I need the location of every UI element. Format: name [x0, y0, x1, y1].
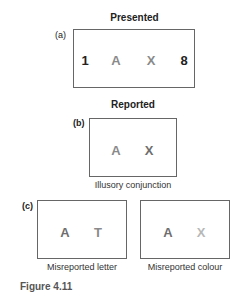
misreported-colour-char-2: X	[197, 225, 206, 240]
misreported-letter-char-2: T	[94, 225, 102, 240]
figure-caption: Figure 4.11	[20, 281, 72, 292]
panel-a-label: (a)	[55, 30, 66, 40]
reported-char-1: A	[111, 143, 120, 158]
presented-box: 1 A X 8	[73, 29, 195, 88]
misreported-letter-caption: Misreported letter	[37, 262, 127, 272]
misreported-colour-char-1: A	[163, 225, 172, 240]
presented-char-4: 8	[180, 53, 187, 68]
reported-char-2: X	[145, 143, 154, 158]
reported-box: A X	[89, 118, 177, 177]
illusory-conjunction-caption: Illusory conjunction	[89, 180, 177, 190]
reported-heading: Reported	[88, 99, 178, 110]
presented-char-3: X	[147, 53, 156, 68]
presented-char-1: 1	[81, 53, 88, 68]
misreported-colour-box: A X	[140, 200, 230, 259]
presented-char-2: A	[111, 53, 120, 68]
panel-c-label: (c)	[22, 201, 33, 211]
misreported-letter-box: A T	[37, 200, 127, 259]
misreported-letter-char-1: A	[60, 225, 69, 240]
panel-b-label: (b)	[73, 118, 85, 128]
presented-heading: Presented	[72, 12, 197, 23]
misreported-colour-caption: Misreported colour	[138, 262, 232, 272]
